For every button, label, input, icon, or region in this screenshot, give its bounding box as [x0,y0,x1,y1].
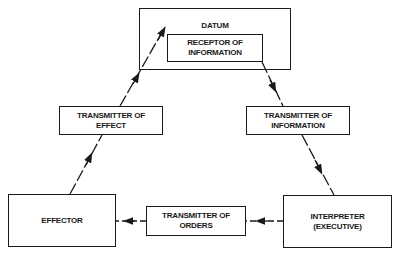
transmitter-information-label: TRANSMITTER OF INFORMATION [264,111,332,131]
transmitter-of-information-box: TRANSMITTER OF INFORMATION [246,106,350,135]
transmitter-of-effect-box: TRANSMITTER OF EFFECT [59,106,163,135]
transmitter-of-orders-box: TRANSMITTER OF ORDERS [146,206,246,236]
interpreter-label: INTERPRETER (EXECUTIVE) [310,212,364,232]
receptor-label: RECEPTOR OF INFORMATION [187,38,242,58]
effector-label: EFFECTOR [41,216,82,226]
transmitter-orders-label: TRANSMITTER OF ORDERS [162,211,230,231]
effector-box: EFFECTOR [8,194,116,247]
receptor-of-information-box: RECEPTOR OF INFORMATION [167,34,263,62]
interpreter-executive-box: INTERPRETER (EXECUTIVE) [283,195,392,248]
transmitter-effect-label: TRANSMITTER OF EFFECT [77,111,145,131]
datum-label: DATUM [140,21,290,31]
